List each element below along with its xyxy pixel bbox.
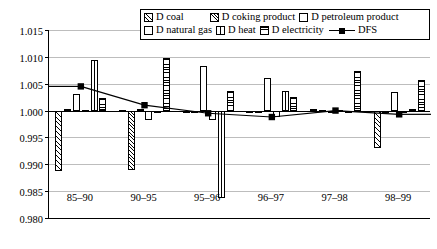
legend-swatch-heat-icon [216,26,225,35]
dfs-marker [396,111,402,117]
chart-figure: D coal D coking product D petroleum prod… [0,0,437,249]
dfs-marker [141,102,147,108]
y-tick-label: 1.005 [19,79,43,90]
legend-swatch-natural-gas-icon [144,26,153,35]
dfs-marker [332,107,338,113]
legend-label-heat: D heat [228,25,256,36]
legend-item-electricity: D electricity [260,25,324,36]
y-tick-label: 1.015 [19,26,43,37]
y-tick-label: 1.000 [19,106,43,117]
legend-label-dfs: DFS [358,25,377,36]
legend-swatch-electricity-icon [260,26,269,35]
legend-row-1: D coal D coking product D petroleum prod… [144,11,427,24]
legend-row-2: D natural gas D heat D electricity DFS [144,24,427,37]
plot-area: 0.9800.9850.9900.9951.0001.0051.0101.015 [48,30,430,218]
legend-item-heat: D heat [216,25,256,36]
x-tick-label: 98–99 [385,192,411,203]
x-tick-label: 95–96 [194,192,220,203]
legend-item-coking-product: D coking product [210,12,296,23]
chart-legend: D coal D coking product D petroleum prod… [140,9,430,40]
gridline-0.980: 0.980 [49,218,430,219]
legend-swatch-dfs-line2-icon [345,30,355,32]
dfs-marker [78,83,84,89]
legend-item-natural-gas: D natural gas [144,25,212,36]
y-tick-label: 0.985 [19,187,43,198]
y-tick-label: 0.995 [19,133,43,144]
dfs-marker [269,114,275,120]
y-tick-label: 0.980 [19,214,43,225]
y-tick-label: 0.990 [19,160,43,171]
dfs-polyline [81,86,399,117]
legend-label-coal: D coal [156,12,184,23]
legend-swatch-coking-product-icon [210,13,219,22]
legend-label-coking-product: D coking product [222,12,296,23]
dfs-line-series [49,30,431,218]
x-tick-label: 90–95 [130,192,156,203]
legend-label-petroleum-product: D petroleum product [311,12,398,23]
x-tick-label: 85–90 [67,192,93,203]
legend-item-dfs: DFS [329,25,377,36]
x-tick-label: 96–97 [258,192,284,203]
legend-swatch-coal-icon [144,13,153,22]
x-tick-label: 97–98 [321,192,347,203]
legend-swatch-petroleum-product-icon [299,13,308,22]
legend-swatch-dfs-line-icon [329,30,339,32]
legend-item-petroleum-product: D petroleum product [299,12,398,23]
legend-label-natural-gas: D natural gas [156,25,212,36]
dfs-marker [205,110,211,116]
legend-item-coal: D coal [144,12,184,23]
legend-label-electricity: D electricity [272,25,324,36]
y-tick-mark [45,218,49,219]
y-tick-label: 1.010 [19,52,43,63]
